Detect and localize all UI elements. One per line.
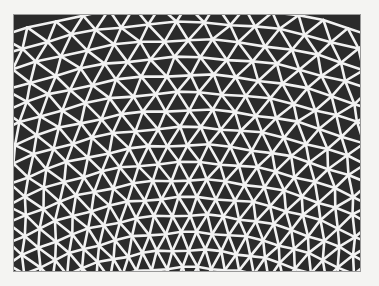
- lattice-photograph: [14, 15, 360, 271]
- lattice-pattern: [14, 15, 360, 271]
- page: [0, 0, 379, 286]
